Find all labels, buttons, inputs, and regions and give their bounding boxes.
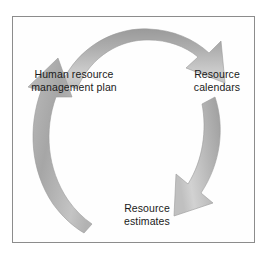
- diagram-frame: Human resource management plan Resource …: [12, 16, 255, 243]
- node-label-line: management plan: [19, 81, 129, 94]
- node-label-resource-calendars: Resource calendars: [181, 68, 253, 93]
- node-label-line: estimates: [111, 215, 183, 228]
- arrow-right: [174, 97, 220, 216]
- node-label-human-resource-management-plan: Human resource management plan: [19, 68, 129, 93]
- node-label-line: Human resource: [19, 68, 129, 81]
- node-label-line: Resource: [111, 202, 183, 215]
- node-label-line: calendars: [181, 81, 253, 94]
- node-label-line: Resource: [181, 68, 253, 81]
- diagram-figure: Human resource management plan Resource …: [0, 0, 268, 258]
- node-label-resource-estimates: Resource estimates: [111, 202, 183, 227]
